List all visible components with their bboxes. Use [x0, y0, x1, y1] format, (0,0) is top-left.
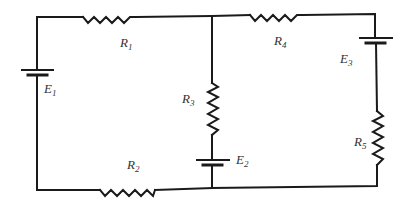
resistor-r2-icon [100, 190, 155, 196]
label-r5: R5 [353, 134, 367, 151]
label-e1: E1 [43, 81, 56, 98]
bottom-right-wire [212, 165, 377, 188]
resistor-r5-icon [373, 111, 383, 165]
top-wire [136, 15, 250, 17]
left-wire [37, 17, 100, 190]
label-e2: E2 [235, 152, 249, 169]
battery-e1-icon [22, 70, 53, 75]
bottom-wire [155, 188, 212, 190]
label-r1: R1 [119, 35, 132, 52]
label-r3: R3 [181, 91, 195, 108]
label-r2: R2 [126, 157, 140, 174]
right-wire [376, 43, 377, 111]
top-right-wire [303, 14, 375, 38]
label-r4: R4 [273, 33, 287, 50]
label-e3: E3 [339, 51, 353, 68]
resistor-r3-icon [208, 83, 218, 135]
resistor-r1-icon [83, 17, 136, 23]
resistor-r4-icon [250, 15, 303, 21]
circuit-diagram: R1 E1 R2 R3 E2 R4 E3 R5 [0, 0, 409, 206]
battery-e2-icon [197, 160, 229, 165]
